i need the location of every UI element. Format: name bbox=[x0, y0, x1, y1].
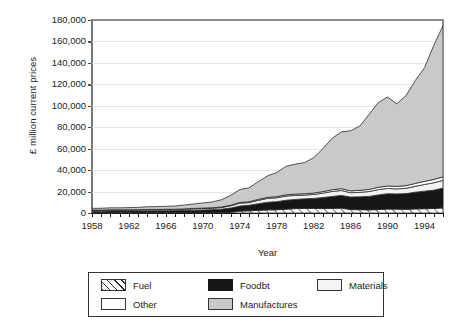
x-axis-title: Year bbox=[92, 247, 443, 258]
y-tick-label: 40,000 bbox=[14, 164, 86, 175]
x-tick-label: 1974 bbox=[229, 220, 250, 231]
y-tick-label: 60,000 bbox=[14, 143, 86, 154]
chart-page: £ million current prices 020,00040,00060… bbox=[0, 0, 468, 332]
legend-item-manufactures[interactable]: Manufactures bbox=[208, 298, 298, 310]
fuel-swatch bbox=[101, 279, 126, 291]
legend-label-fuel: Fuel bbox=[133, 280, 151, 291]
manufactures-swatch bbox=[208, 298, 233, 310]
y-tick-label: 0 bbox=[14, 207, 86, 218]
legend-item-other[interactable]: Other bbox=[101, 298, 157, 310]
x-tick-label: 1986 bbox=[340, 220, 361, 231]
y-tick-mark bbox=[88, 63, 92, 64]
y-tick-mark bbox=[88, 192, 92, 193]
area-manufactures bbox=[92, 26, 443, 210]
legend-label-materials: Materials bbox=[349, 280, 388, 291]
y-tick-mark bbox=[88, 106, 92, 107]
legend-item-materials[interactable]: Materials bbox=[317, 279, 388, 291]
y-tick-mark bbox=[88, 127, 92, 128]
legend-item-fuel[interactable]: Fuel bbox=[101, 279, 151, 291]
x-tick-label: 1966 bbox=[155, 220, 176, 231]
legend-label-manufactures: Manufactures bbox=[240, 299, 298, 310]
x-tick-label: 1970 bbox=[192, 220, 213, 231]
y-tick-label: 20,000 bbox=[14, 186, 86, 197]
materials-swatch bbox=[317, 279, 342, 291]
y-tick-mark bbox=[88, 20, 92, 21]
y-tick-mark bbox=[88, 41, 92, 42]
legend-label-foodbt: Foodbt bbox=[240, 280, 270, 291]
x-tick-label: 1978 bbox=[266, 220, 287, 231]
y-tick-label: 120,000 bbox=[14, 78, 86, 89]
x-tick-label: 1982 bbox=[303, 220, 324, 231]
other-swatch bbox=[101, 298, 126, 310]
y-tick-label: 100,000 bbox=[14, 100, 86, 111]
y-tick-label: 160,000 bbox=[14, 35, 86, 46]
y-tick-mark bbox=[88, 84, 92, 85]
x-tick-label: 1990 bbox=[377, 220, 398, 231]
x-tick-label: 1958 bbox=[81, 220, 102, 231]
x-tick-label: 1994 bbox=[414, 220, 435, 231]
legend-label-other: Other bbox=[133, 299, 157, 310]
y-tick-mark bbox=[88, 170, 92, 171]
chart-legend: Fuel Other Foodbt Manufactures Materials bbox=[88, 272, 384, 317]
plot-area: 020,00040,00060,00080,000100,000120,0001… bbox=[92, 20, 443, 213]
y-tick-label: 180,000 bbox=[14, 14, 86, 25]
x-tick-label: 1962 bbox=[118, 220, 139, 231]
y-tick-label: 140,000 bbox=[14, 57, 86, 68]
y-tick-mark bbox=[88, 149, 92, 150]
foodbt-swatch bbox=[208, 279, 233, 291]
x-axis-line bbox=[91, 213, 444, 215]
stacked-area-series bbox=[92, 20, 443, 213]
y-tick-label: 80,000 bbox=[14, 121, 86, 132]
legend-item-foodbt[interactable]: Foodbt bbox=[208, 279, 270, 291]
